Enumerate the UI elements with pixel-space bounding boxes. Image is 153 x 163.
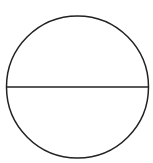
circle-diagram — [0, 0, 153, 163]
